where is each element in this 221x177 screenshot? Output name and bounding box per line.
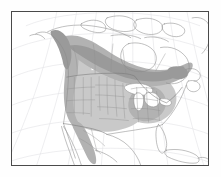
map-frame: [11, 11, 209, 166]
north-america-range-map: [12, 12, 208, 165]
lake-michigan: [134, 93, 144, 111]
figure-container: [0, 0, 221, 177]
